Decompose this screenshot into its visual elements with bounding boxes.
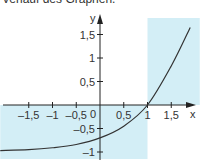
y-tick-label: 1 [89,52,95,64]
y-axis-label: y [90,12,96,24]
x-tick-label: –1 [46,109,58,121]
chart: xy –1,5–1–0,50,511,51,510,5–0,5–10 [0,0,201,166]
x-tick-label: 1,5 [164,109,179,121]
y-tick-label: –0,5 [74,123,95,135]
y-tick-label: –1 [83,146,95,158]
x-tick-label: –0,5 [66,109,87,121]
x-axis-label: x [190,108,196,120]
y-axis-arrow [97,14,103,24]
y-tick-label: 1,5 [80,29,95,41]
x-tick-label: 1 [144,109,150,121]
y-tick-label: 0,5 [80,76,95,88]
origin-label: 0 [90,108,96,120]
x-tick-label: –1,5 [18,109,39,121]
x-tick-label: 0,5 [116,109,131,121]
